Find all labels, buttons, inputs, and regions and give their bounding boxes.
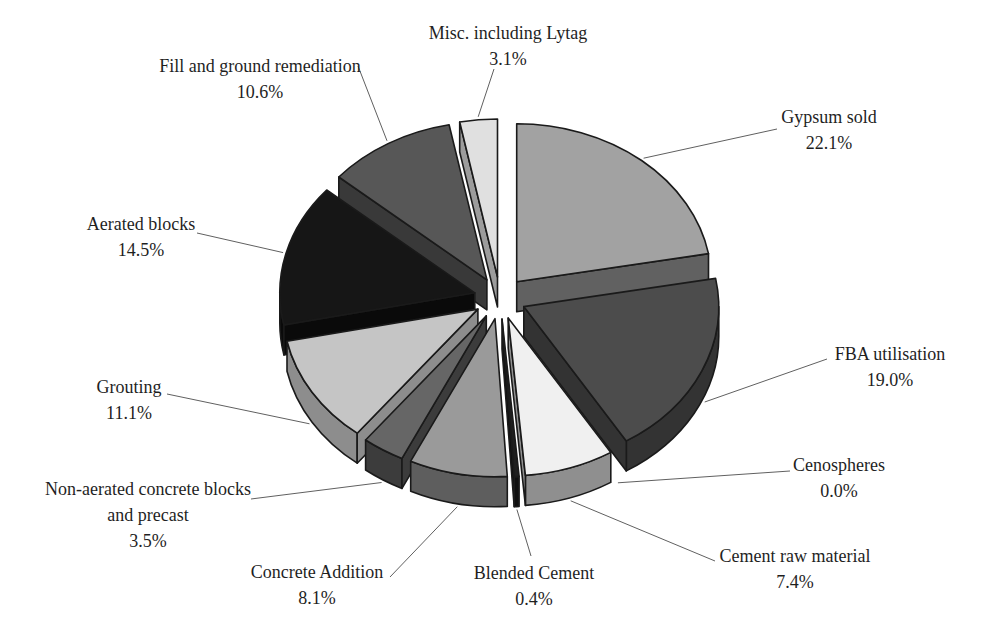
label-grouting: Grouting11.1% [97, 374, 162, 426]
label-percent: 3.1% [429, 46, 587, 72]
label-non-aerated-concrete-blocks-and-precast: Non-aerated concrete blocksand precast3.… [45, 476, 251, 554]
label-fba-utilisation: FBA utilisation19.0% [835, 341, 946, 393]
leader-line-fba-utilisation [705, 359, 827, 402]
label-percent: 19.0% [835, 367, 946, 393]
label-aerated-blocks: Aerated blocks14.5% [87, 211, 195, 263]
label-percent: 3.5% [45, 528, 251, 554]
label-percent: 0.0% [793, 478, 885, 504]
label-percent: 10.6% [159, 79, 360, 105]
leader-line-misc-including-lytag [478, 69, 494, 117]
leader-line-non-aerated-concrete-blocks-and-precast [251, 483, 382, 500]
label-gypsum-sold: Gypsum sold22.1% [781, 104, 877, 156]
label-text: Cenospheres [793, 452, 885, 478]
label-text: and precast [45, 502, 251, 528]
leader-line-cenospheres [618, 471, 790, 483]
label-concrete-addition: Concrete Addition8.1% [251, 559, 383, 611]
label-percent: 14.5% [87, 237, 195, 263]
label-text: Fill and ground remediation [159, 53, 360, 79]
chart-page: Gypsum sold22.1%FBA utilisation19.0%Ceno… [0, 0, 997, 635]
label-fill-and-ground-remediation: Fill and ground remediation10.6% [159, 53, 360, 105]
leader-line-grouting [167, 394, 310, 424]
label-cement-raw-material: Cement raw material7.4% [720, 543, 871, 595]
label-text: Gypsum sold [781, 104, 877, 130]
label-text: FBA utilisation [835, 341, 946, 367]
leader-line-gypsum-sold [644, 129, 777, 158]
label-percent: 11.1% [97, 400, 162, 426]
label-percent: 22.1% [781, 130, 877, 156]
leader-line-concrete-addition [390, 507, 457, 577]
label-text: Concrete Addition [251, 559, 383, 585]
label-text: Misc. including Lytag [429, 20, 587, 46]
leader-line-aerated-blocks [197, 233, 283, 253]
label-blended-cement: Blended Cement0.4% [474, 560, 594, 612]
leader-line-fill-and-ground-remediation [358, 66, 387, 141]
label-percent: 7.4% [720, 569, 871, 595]
label-text: Cement raw material [720, 543, 871, 569]
leader-line-blended-cement [517, 510, 531, 557]
label-text: Grouting [97, 374, 162, 400]
label-text: Blended Cement [474, 560, 594, 586]
label-percent: 0.4% [474, 586, 594, 612]
leader-line-cement-raw-material [571, 501, 715, 561]
label-cenospheres: Cenospheres0.0% [793, 452, 885, 504]
label-text: Aerated blocks [87, 211, 195, 237]
label-misc-including-lytag: Misc. including Lytag3.1% [429, 20, 587, 72]
label-text: Non-aerated concrete blocks [45, 476, 251, 502]
label-percent: 8.1% [251, 585, 383, 611]
pie-slice-face [517, 124, 709, 282]
